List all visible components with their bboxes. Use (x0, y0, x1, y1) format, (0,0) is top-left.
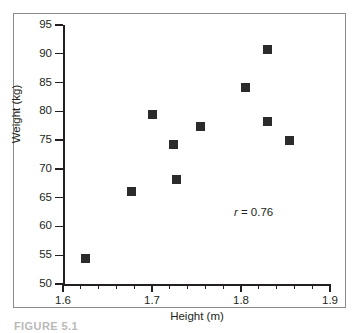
y-axis-tick (55, 226, 63, 227)
x-axis-tick-minor (294, 285, 295, 289)
data-point (172, 175, 181, 184)
y-axis-title: Weight (kg) (10, 54, 22, 174)
data-point (285, 136, 294, 145)
correlation-value: = 0.76 (238, 206, 274, 218)
y-axis-tick-label: 90 (26, 48, 52, 60)
y-axis-tick (55, 255, 63, 256)
x-axis-tick-minor (134, 285, 135, 289)
figure-root: 50556065707580859095 1.61.71.81.9 r = 0.… (0, 0, 360, 333)
x-axis-tick-minor (258, 285, 259, 289)
x-axis-tick-minor (205, 285, 206, 289)
x-axis-tick-label: 1.6 (43, 294, 83, 307)
x-axis-tick-major (329, 285, 330, 292)
y-axis-tick (55, 82, 63, 83)
data-point (127, 187, 136, 196)
x-axis-tick-label: 1.7 (132, 294, 172, 307)
y-axis-tick (55, 111, 63, 112)
x-axis-tick-label: 1.9 (310, 294, 350, 307)
x-axis-tick-minor (223, 285, 224, 289)
correlation-annotation: r = 0.76 (234, 206, 273, 218)
data-point (196, 122, 205, 131)
y-axis-tick (55, 168, 63, 169)
data-point (263, 117, 272, 126)
x-axis-tick-minor (276, 285, 277, 289)
x-axis-tick-label: 1.8 (221, 294, 261, 307)
data-point (241, 83, 250, 92)
y-axis-tick (55, 197, 63, 198)
data-point (169, 140, 178, 149)
y-axis-tick (55, 53, 63, 54)
y-axis-tick-label: 75 (26, 134, 52, 146)
y-axis-tick (55, 139, 63, 140)
plot-area (63, 25, 330, 284)
y-axis-tick-label: 50 (26, 278, 52, 290)
figure-caption: FIGURE 5.1 (14, 320, 78, 333)
y-axis-tick-label: 65 (26, 192, 52, 204)
x-axis-tick-minor (187, 285, 188, 289)
x-axis-tick-minor (116, 285, 117, 289)
x-axis-tick-major (62, 285, 63, 292)
y-axis-tick-label: 80 (26, 105, 52, 117)
y-axis-tick (55, 24, 63, 25)
x-axis-title: Height (m) (63, 310, 331, 322)
x-axis-tick-major (151, 285, 152, 292)
y-axis-tick-label: 70 (26, 163, 52, 175)
x-axis-tick-minor (80, 285, 81, 289)
y-axis-tick-label: 95 (26, 19, 52, 31)
x-axis-tick-minor (98, 285, 99, 289)
data-point (148, 110, 157, 119)
x-axis-tick-major (240, 285, 241, 292)
y-axis-tick-label: 55 (26, 249, 52, 261)
y-axis-tick-label: 60 (26, 220, 52, 232)
data-point (263, 45, 272, 54)
x-axis-tick-minor (312, 285, 313, 289)
x-axis-line (63, 284, 331, 286)
data-point (81, 254, 90, 263)
y-axis-tick-label: 85 (26, 77, 52, 89)
x-axis-tick-minor (169, 285, 170, 289)
